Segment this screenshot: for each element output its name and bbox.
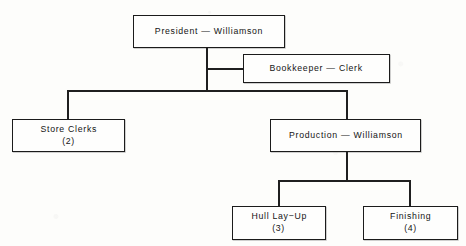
connector-production-trunk: [346, 151, 348, 181]
connector-level2-bar: [67, 90, 348, 92]
node-hull-lay-up-count: (3): [273, 223, 285, 235]
connector-to-store-clerks: [67, 90, 69, 120]
node-hull-lay-up-label: Hull Lay−Up: [251, 211, 307, 222]
org-chart-canvas: President — Williamson Bookkeeper — Cler…: [0, 0, 466, 246]
node-store-clerks-label: Store Clerks: [40, 124, 97, 135]
connector-to-production: [346, 90, 348, 120]
node-production-label: Production — Williamson: [289, 130, 403, 141]
node-production[interactable]: Production — Williamson: [270, 119, 421, 152]
connector-level3-bar: [278, 180, 410, 182]
node-finishing[interactable]: Finishing (4): [363, 206, 458, 240]
node-bookkeeper[interactable]: Bookkeeper — Clerk: [243, 54, 390, 83]
node-president-label: President — Williamson: [155, 26, 263, 37]
node-store-clerks[interactable]: Store Clerks (2): [12, 119, 125, 152]
node-hull-lay-up[interactable]: Hull Lay−Up (3): [232, 206, 326, 240]
node-finishing-label: Finishing: [390, 211, 431, 222]
node-bookkeeper-label: Bookkeeper — Clerk: [270, 63, 363, 74]
node-finishing-count: (4): [404, 223, 416, 235]
node-store-clerks-count: (2): [62, 136, 74, 148]
node-president[interactable]: President — Williamson: [133, 15, 285, 48]
connector-president-to-bookkeeper: [206, 68, 244, 70]
connector-to-hull-lay-up: [278, 180, 280, 206]
connector-to-finishing: [409, 180, 411, 206]
